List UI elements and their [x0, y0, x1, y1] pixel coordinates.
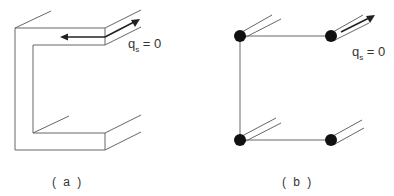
- q-value: = 0: [367, 44, 385, 59]
- shear-flow-label-a: qs = 0: [128, 36, 161, 54]
- shear-flow-label-b: qs = 0: [352, 44, 385, 62]
- booms-b: [234, 30, 337, 146]
- boom-top-left: [234, 30, 246, 42]
- boom-bottom-left: [234, 134, 246, 146]
- diagram-canvas: [0, 0, 394, 196]
- caption-a: ( a ): [52, 175, 83, 189]
- idealized-section-b: [240, 15, 369, 144]
- channel-section-a: [15, 10, 141, 150]
- q-subscript: s: [135, 45, 139, 54]
- boom-top-right: [325, 30, 337, 42]
- caption-b: ( b ): [282, 175, 313, 189]
- q-value: = 0: [143, 36, 161, 51]
- boom-bottom-right: [325, 134, 337, 146]
- q-subscript: s: [359, 53, 363, 62]
